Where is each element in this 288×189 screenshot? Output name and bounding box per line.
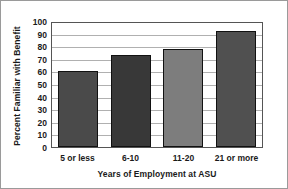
bar [111,55,151,147]
plot-area [51,22,263,148]
y-tick-label: 30 [38,106,47,115]
y-tick-label: 40 [38,93,47,102]
y-tick-label: 60 [38,68,47,77]
y-tick-label: 80 [38,43,47,52]
bar [216,31,256,147]
y-axis-title: Percent Familiar with Benefit [10,16,24,156]
y-tick-label: 70 [38,55,47,64]
bar-slot [157,23,210,147]
bar-slot [52,23,105,147]
bar-chart-figure: Percent Familiar with Benefit 0102030405… [0,0,288,189]
y-tick-label: 100 [33,18,47,27]
bar-slot [105,23,158,147]
y-tick-label: 10 [38,131,47,140]
x-tick-label: 5 or less [51,151,104,165]
bar [163,49,203,147]
y-tick-label: 20 [38,118,47,127]
x-axis-tick-labels: 5 or less6-1011-2021 or more [51,151,263,165]
bar-series [52,23,262,147]
x-tick-label: 6-10 [104,151,157,165]
bar-slot [210,23,263,147]
y-tick-label: 90 [38,30,47,39]
x-tick-label: 21 or more [210,151,263,165]
y-axis-tick-labels: 0102030405060708090100 [25,22,49,148]
y-tick-label: 0 [42,144,47,153]
y-tick-label: 50 [38,81,47,90]
x-axis-title: Years of Employment at ASU [51,169,263,179]
bar [58,71,98,147]
x-tick-label: 11-20 [157,151,210,165]
